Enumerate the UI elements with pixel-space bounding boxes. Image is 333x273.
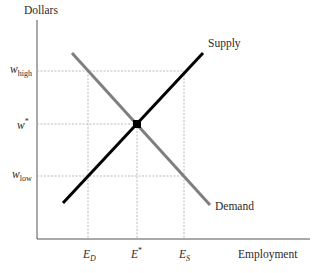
chart-canvas xyxy=(0,0,333,273)
e-d-tick-label: ED xyxy=(83,248,96,263)
e-s-tick-label: ES xyxy=(179,248,190,263)
supply-label: Supply xyxy=(208,37,241,49)
demand-label: Demand xyxy=(215,200,254,212)
x-axis-label: Employment xyxy=(238,248,297,260)
equilibrium-point xyxy=(133,120,141,128)
y-axis-label: Dollars xyxy=(24,4,58,16)
w-star-tick-label: w* xyxy=(17,117,29,131)
e-star-tick-label: E* xyxy=(131,246,142,260)
w-high-tick-label: whigh xyxy=(10,63,32,78)
w-low-tick-label: wlow xyxy=(12,168,32,183)
demand-curve xyxy=(72,53,210,205)
